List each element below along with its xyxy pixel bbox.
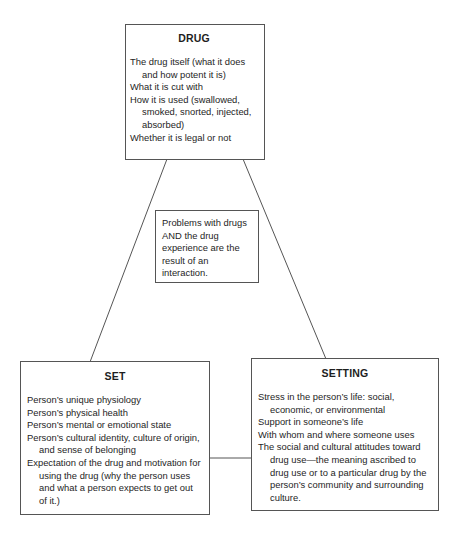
setting-item: The social and cultural attitudes toward…: [258, 441, 432, 504]
set-item: Person’s unique physiology: [27, 394, 203, 407]
setting-title: SETTING: [258, 367, 432, 379]
set-item: Expectation of the drug and motivation f…: [27, 457, 203, 507]
drug-item: Whether it is legal or not: [130, 132, 258, 145]
set-item: Person’s physical health: [27, 407, 203, 420]
drug-item: How it is used (swallowed, smoked, snort…: [130, 94, 258, 132]
drug-item: The drug itself (what it does and how po…: [130, 56, 258, 81]
setting-item: Support in someone’s life: [258, 416, 432, 429]
set-item: Person’s cultural identity, culture of o…: [27, 432, 203, 457]
drug-box: DRUG The drug itself (what it does and h…: [125, 24, 265, 160]
setting-item: Stress in the person’s life: social, eco…: [258, 391, 432, 416]
drug-title: DRUG: [130, 32, 258, 44]
set-item: Person’s mental or emotional state: [27, 419, 203, 432]
center-note-box: Problems with drugs AND the drug experie…: [155, 210, 259, 283]
set-title: SET: [27, 370, 203, 382]
setting-item: With whom and where someone uses: [258, 429, 432, 442]
drug-item: What it is cut with: [130, 81, 258, 94]
set-box: SET Person’s unique physiology Person’s …: [20, 361, 210, 515]
center-note-text: Problems with drugs AND the drug experie…: [162, 217, 253, 280]
setting-box: SETTING Stress in the person’s life: soc…: [251, 358, 439, 511]
